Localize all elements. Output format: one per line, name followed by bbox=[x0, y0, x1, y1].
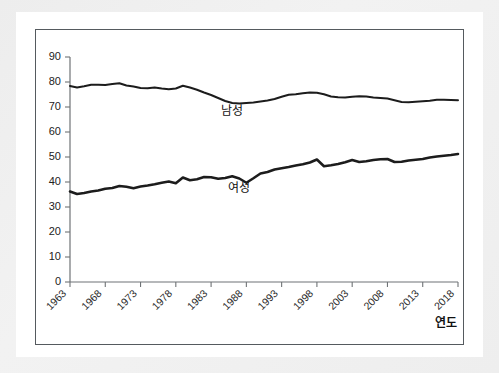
x-tick-label: 2018 bbox=[431, 287, 456, 312]
x-tick-label: 1998 bbox=[290, 287, 315, 312]
x-tick-label: 1963 bbox=[43, 287, 68, 312]
y-tick-label: 10 bbox=[49, 250, 61, 262]
line-chart: 0102030405060708090 19631968197319781983… bbox=[0, 0, 499, 373]
series-line-male bbox=[70, 83, 458, 103]
chart-plot-area: 0102030405060708090 19631968197319781983… bbox=[0, 0, 499, 373]
x-tick-label: 1973 bbox=[114, 287, 139, 312]
x-tick-label: 1983 bbox=[185, 287, 210, 312]
series-line-female bbox=[70, 154, 458, 194]
series-label-female: 여성 bbox=[228, 181, 250, 195]
x-tick-label: 1993 bbox=[255, 287, 280, 312]
x-tick-label: 2003 bbox=[326, 287, 351, 312]
y-tick-label: 70 bbox=[49, 100, 61, 112]
y-tick-label: 30 bbox=[49, 200, 61, 212]
y-axis: 0102030405060708090 bbox=[49, 50, 70, 287]
x-tick-label: 2013 bbox=[396, 287, 421, 312]
x-axis: 1963196819731978198319881993199820032008… bbox=[43, 282, 458, 312]
data-series-group bbox=[70, 83, 458, 194]
y-tick-label: 0 bbox=[55, 275, 61, 287]
x-tick-label: 2008 bbox=[361, 287, 386, 312]
page-background: 0102030405060708090 19631968197319781983… bbox=[0, 0, 499, 373]
y-tick-label: 40 bbox=[49, 175, 61, 187]
x-tick-label: 1968 bbox=[79, 287, 104, 312]
series-annotations: 남성여성 bbox=[221, 104, 250, 196]
y-tick-label: 80 bbox=[49, 75, 61, 87]
y-tick-label: 60 bbox=[49, 125, 61, 137]
y-tick-label: 20 bbox=[49, 225, 61, 237]
x-tick-label: 1988 bbox=[220, 287, 245, 312]
series-label-male: 남성 bbox=[221, 104, 243, 118]
y-tick-label: 50 bbox=[49, 150, 61, 162]
x-tick-label: 1978 bbox=[149, 287, 174, 312]
y-tick-label: 90 bbox=[49, 50, 61, 62]
x-axis-title: 연도 bbox=[435, 315, 457, 330]
